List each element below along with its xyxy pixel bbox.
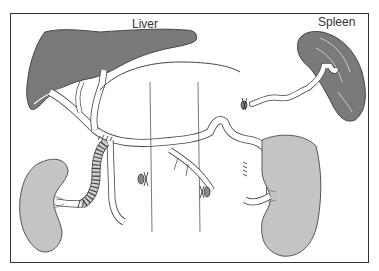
ligated-stump-left	[138, 174, 144, 184]
liver-label: Liver	[132, 17, 158, 31]
spleen-label: Spleen	[318, 15, 355, 29]
anatomy-diagram	[0, 0, 379, 271]
portal-vein	[50, 92, 270, 200]
spleen	[298, 31, 366, 121]
ligated-stump-right	[204, 187, 210, 197]
right-kidney	[262, 135, 321, 256]
